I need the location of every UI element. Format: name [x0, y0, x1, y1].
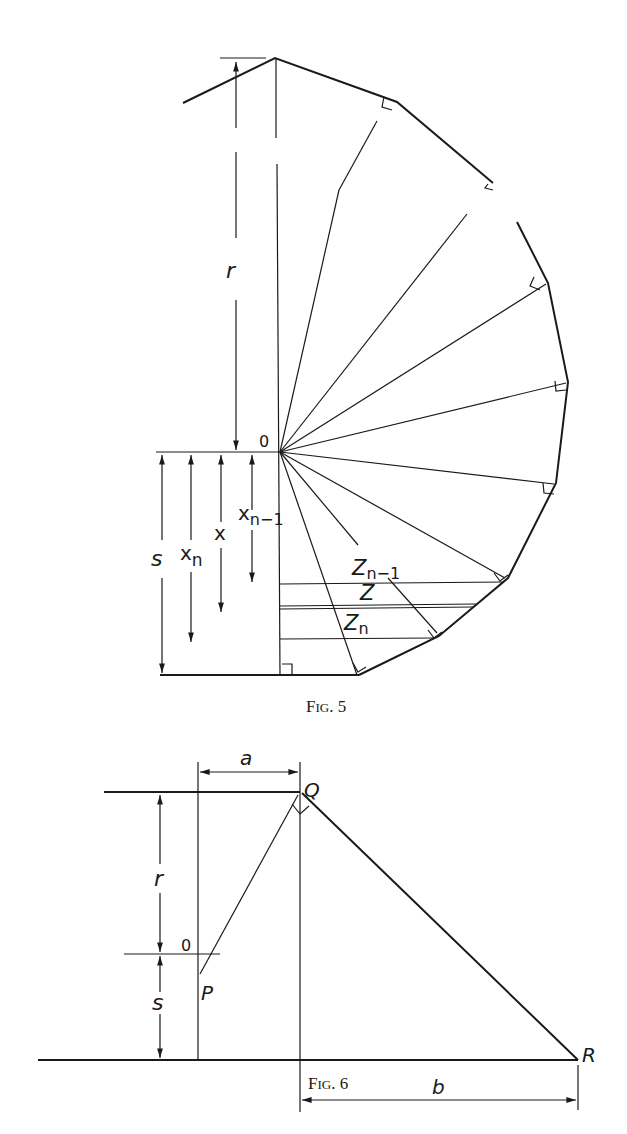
- label-origin: 0: [259, 432, 269, 451]
- vertical-axis: [277, 164, 280, 675]
- label-s: s: [151, 546, 162, 571]
- segment-pq: [200, 795, 298, 974]
- label-z-n-1: Zn−1: [351, 556, 400, 583]
- caption-fig-5: FIG. 5: [306, 697, 346, 716]
- label-P: P: [201, 981, 214, 1005]
- figure-canvas: r 0 s xn x xn−1 Zn−1 Z Zn FIG. 5: [0, 0, 627, 1134]
- z-line-a: [280, 604, 476, 606]
- label-xn-1: xn−1: [238, 501, 284, 529]
- right-angle-marks: [282, 97, 566, 675]
- label-R: R: [582, 1043, 596, 1067]
- label-x: x: [214, 521, 226, 545]
- z-line-b: [280, 607, 473, 609]
- label-a: a: [240, 746, 252, 770]
- label-b: b: [432, 1075, 445, 1099]
- z-n-line: [280, 638, 435, 639]
- label-z-n: Zn: [343, 611, 369, 638]
- label-origin: 0: [181, 936, 191, 955]
- caption-fig-6: FIG. 6: [308, 1074, 348, 1093]
- z-n-1-leader: [388, 578, 437, 633]
- label-xn: xn: [180, 541, 203, 570]
- label-z: Z: [359, 581, 375, 605]
- segment-qr: [302, 793, 578, 1060]
- label-Q: Q: [304, 778, 320, 802]
- label-s: s: [152, 990, 163, 1015]
- radial-rays: [280, 121, 566, 675]
- profile-outline-top: [183, 58, 493, 183]
- label-r: r: [226, 258, 237, 283]
- figure-5: r 0 s xn x xn−1 Zn−1 Z Zn FIG. 5: [151, 58, 568, 716]
- figure-6: a Q r 0 P s R b FIG. 6: [38, 746, 596, 1112]
- label-r: r: [154, 866, 165, 891]
